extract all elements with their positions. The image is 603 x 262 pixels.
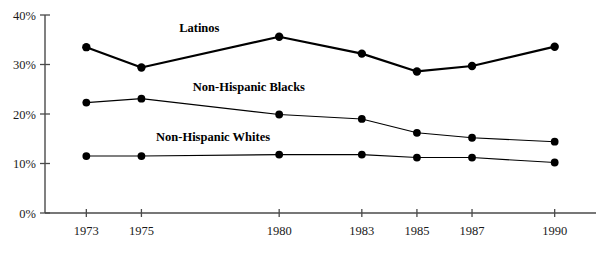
data-point-latinos-1990 — [550, 42, 558, 50]
data-point-non-hispanic-whites-1983 — [358, 151, 366, 159]
series-label-non-hispanic-whites: Non-Hispanic Whites — [156, 130, 270, 144]
data-point-non-hispanic-whites-1973 — [82, 152, 90, 160]
data-point-latinos-1985 — [413, 67, 421, 75]
y-tick-label-20%: 20% — [13, 108, 36, 122]
series-non-hispanic-blacks: Non-Hispanic Blacks — [82, 80, 558, 145]
x-tick-label-1973: 1973 — [74, 224, 99, 238]
data-point-latinos-1983 — [358, 49, 366, 57]
data-point-non-hispanic-whites-1980 — [275, 151, 283, 159]
series-label-non-hispanic-blacks: Non-Hispanic Blacks — [193, 80, 305, 94]
x-tick-label-1987: 1987 — [460, 224, 485, 238]
series-label-latinos: Latinos — [179, 21, 219, 35]
series-non-hispanic-whites: Non-Hispanic Whites — [82, 130, 558, 167]
line-chart: 0%10%20%30%40%19731975198019831985198719… — [0, 0, 603, 262]
y-tick-label-40%: 40% — [13, 9, 36, 23]
data-point-latinos-1987 — [468, 62, 476, 70]
series-line-latinos — [86, 37, 554, 72]
y-tick-label-10%: 10% — [13, 157, 36, 171]
chart-canvas: 0%10%20%30%40%19731975198019831985198719… — [0, 0, 603, 262]
data-point-latinos-1975 — [137, 63, 145, 71]
data-point-non-hispanic-blacks-1985 — [413, 129, 421, 137]
data-point-latinos-1973 — [82, 43, 90, 51]
series-latinos: Latinos — [82, 21, 559, 76]
x-tick-label-1990: 1990 — [542, 224, 567, 238]
y-tick-label-0%: 0% — [19, 207, 36, 221]
data-point-non-hispanic-blacks-1975 — [138, 95, 146, 103]
data-point-non-hispanic-blacks-1983 — [358, 115, 366, 123]
data-point-non-hispanic-blacks-1990 — [551, 138, 559, 146]
x-tick-label-1975: 1975 — [129, 224, 154, 238]
data-point-latinos-1980 — [275, 33, 283, 41]
x-tick-label-1983: 1983 — [349, 224, 374, 238]
series-line-non-hispanic-whites — [86, 155, 554, 163]
data-point-non-hispanic-blacks-1987 — [468, 134, 476, 142]
data-point-non-hispanic-blacks-1980 — [275, 111, 283, 119]
x-tick-label-1985: 1985 — [404, 224, 429, 238]
data-point-non-hispanic-whites-1985 — [413, 154, 421, 162]
data-point-non-hispanic-blacks-1973 — [82, 99, 90, 107]
x-tick-label-1980: 1980 — [267, 224, 292, 238]
data-point-non-hispanic-whites-1975 — [138, 152, 146, 160]
data-point-non-hispanic-whites-1987 — [468, 154, 476, 162]
y-tick-label-30%: 30% — [13, 58, 36, 72]
data-point-non-hispanic-whites-1990 — [551, 159, 559, 167]
